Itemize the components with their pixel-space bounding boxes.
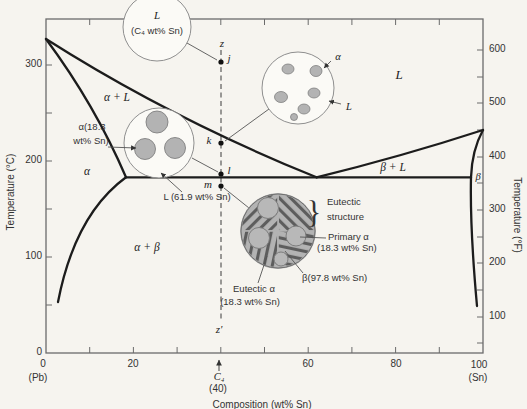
point-m-label: m [204, 179, 212, 191]
point-l-dot [218, 171, 223, 176]
y-left-label-200: 200 [14, 155, 42, 166]
y-left-label-0: 0 [14, 347, 42, 358]
x-label-20: 20 [127, 359, 138, 370]
y-left-label-100: 100 [14, 251, 42, 262]
x-label-sn: (Sn) [469, 373, 488, 384]
y-right-label-100: 100 [489, 311, 506, 322]
eutectic-structure-line2: structure [327, 212, 364, 222]
point-m-dot [218, 183, 223, 188]
phase-diagram-figure: α + L L α β + L β α + β z j k l m z' L (… [0, 0, 527, 409]
c4-value-label: (40) [209, 384, 227, 395]
inset-growth-circle [108, 108, 194, 192]
point-z-prime-label: z' [216, 324, 223, 336]
nuclei-liquid-label: L [346, 101, 352, 112]
c4-label: C₄ [214, 371, 225, 382]
solidus-beta [471, 130, 483, 177]
point-z-label: z [220, 38, 224, 50]
region-alpha-beta: α + β [134, 241, 159, 253]
point-k-label: k [207, 135, 212, 147]
growth-liquid-label: L (61.9 wt% Sn) [163, 192, 230, 202]
eutectic-alpha-line1: Eutectic α [233, 284, 275, 294]
liquid-circle-L: L [154, 10, 160, 22]
primary-alpha-line2: (18.3 wt% Sn) [317, 243, 377, 253]
y-right-label-200: 200 [489, 257, 506, 268]
eutectic-structure-line1: Eutectic [327, 197, 361, 207]
y-left-label-300: 300 [14, 59, 42, 70]
inset-nuclei-circle [262, 52, 341, 124]
beta-composition-label: β(97.8 wt% Sn) [302, 273, 367, 283]
solvus-beta [471, 177, 477, 306]
y-right-axis-title: Temperature (°F) [512, 177, 523, 253]
point-l-label: l [227, 165, 230, 177]
y-right-label-600: 600 [489, 44, 506, 55]
nuclei-alpha-label: α [335, 51, 341, 62]
x-label-pb: (Pb) [29, 373, 48, 384]
y-right-label-300: 300 [489, 204, 506, 215]
y-right-ticks [477, 50, 483, 343]
point-k-dot [218, 140, 223, 145]
solvus-alpha [58, 177, 126, 302]
x-label-80: 80 [390, 359, 401, 370]
eutectic-alpha-line2: (18.3 wt% Sn) [220, 297, 280, 307]
x-label-0: 0 [40, 359, 46, 370]
y-right-label-500: 500 [489, 97, 506, 108]
region-alpha-liquid: α + L [104, 91, 130, 103]
x-axis-title: Composition (wt% Sn) [213, 400, 312, 409]
region-liquid: L [395, 68, 402, 82]
y-left-axis-title: Temperature (°C) [6, 154, 17, 231]
y-left-ticks [46, 65, 52, 305]
region-alpha: α [84, 165, 90, 177]
growth-alpha-label-line1: α(18.3 [78, 122, 105, 132]
liquid-circle-composition: (C₄ wt% Sn) [131, 26, 183, 36]
y-right-label-400: 400 [489, 151, 506, 162]
point-j-label: j [227, 53, 230, 65]
phase-diagram-canvas [0, 0, 527, 409]
solidus-alpha [46, 39, 126, 177]
x-label-100: 100 [471, 360, 488, 371]
eutectic-brace: } [307, 195, 321, 229]
growth-alpha-label-line2: wt% Sn) [73, 136, 108, 146]
region-beta-liquid: β + L [380, 161, 406, 173]
primary-alpha-line1: Primary α [328, 232, 369, 242]
point-j-dot [218, 59, 223, 64]
region-beta: β [475, 171, 480, 182]
x-label-60: 60 [302, 359, 313, 370]
